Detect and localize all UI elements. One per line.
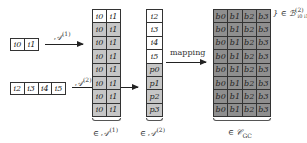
grid-c-brace: [213, 118, 271, 121]
column-a1: i0i1 i0i1 i0i1 i0i1 i0i1 i0i1 i0i1 i0i1: [92, 9, 121, 117]
cell: b1: [227, 64, 241, 76]
row-annotation: } ∈ ℬ(2)i0 i1: [273, 6, 307, 19]
mapping-label: mapping: [170, 48, 205, 57]
annotation-sup: (2): [295, 6, 304, 13]
cell: b2: [242, 90, 256, 102]
mapping-arrow: [166, 62, 206, 63]
caption-sub: GC: [242, 132, 251, 139]
grid-c-row: b0b1b2b3: [214, 49, 270, 62]
cell: i1: [106, 64, 120, 76]
arrow-a1-symbol: 𝒜: [54, 33, 62, 42]
cell: i1: [106, 10, 120, 22]
cell: i0: [93, 104, 106, 116]
token-cell: i1: [24, 39, 38, 50]
token-cell: i3: [24, 83, 38, 94]
cell: i0: [93, 37, 106, 49]
grid-c-row: b0b1b2b3: [214, 103, 270, 116]
grid-c-caption: ∈ 𝒞GC: [228, 128, 252, 139]
column-a2-row: p3: [147, 103, 162, 116]
column-a1-brace: [92, 118, 121, 121]
grid-c-row: b0b1b2b3: [214, 76, 270, 89]
cell: b2: [242, 77, 256, 89]
input-a1-box: i0 i1: [10, 38, 39, 51]
column-a1-row: i0i1: [93, 76, 120, 89]
caption-text: ∈ 𝒞: [228, 128, 242, 137]
cell: p0: [147, 64, 162, 76]
cell: b0: [214, 37, 227, 49]
cell: b1: [227, 90, 241, 102]
token-cell: i2: [11, 83, 24, 94]
arrow-a2-sup: (2): [83, 76, 92, 83]
column-a2-row: p1: [147, 76, 162, 89]
cell: i1: [106, 37, 120, 49]
cell: b0: [214, 104, 227, 116]
grid-c-row: b0b1b2b3: [214, 63, 270, 76]
column-a1-row: i0i1: [93, 63, 120, 76]
token-cell: i4: [38, 83, 52, 94]
arrow-a1: [45, 44, 83, 45]
column-a2: i2 i3 i4 i5 p0 p1 p2 p3: [146, 9, 163, 117]
cell: b3: [256, 23, 270, 35]
caption-sup: (2): [156, 126, 165, 133]
column-a1-row: i0i1: [93, 36, 120, 49]
cell: b2: [242, 10, 256, 22]
cell: i1: [106, 90, 120, 102]
column-a2-row: i4: [147, 36, 162, 49]
cell: b2: [242, 104, 256, 116]
grid-c-row: b0b1b2b3: [214, 10, 270, 22]
column-a2-row: i5: [147, 49, 162, 62]
cell: i4: [147, 37, 162, 49]
cell: b1: [227, 50, 241, 62]
column-a2-row: p0: [147, 63, 162, 76]
column-a2-row: p2: [147, 89, 162, 102]
cell: b2: [242, 23, 256, 35]
column-a1-row: i0i1: [93, 22, 120, 35]
cell: b3: [256, 50, 270, 62]
arrow-a1-label: 𝒜(1): [54, 30, 71, 43]
token-cell: i0: [11, 39, 24, 50]
cell: b3: [256, 104, 270, 116]
cell: i0: [93, 50, 106, 62]
column-a2-brace: [146, 118, 163, 121]
column-a1-row: i0i1: [93, 10, 120, 22]
column-a2-row: i2: [147, 10, 162, 22]
cell: b3: [256, 64, 270, 76]
grid-c: b0b1b2b3 b0b1b2b3 b0b1b2b3 b0b1b2b3 b0b1…: [213, 9, 271, 117]
cell: i0: [93, 90, 106, 102]
cell: b1: [227, 23, 241, 35]
annotation-sub: i0 i1: [298, 13, 307, 19]
column-a1-row: i0i1: [93, 49, 120, 62]
cell: b3: [256, 10, 270, 22]
cell: b3: [256, 37, 270, 49]
cell: p1: [147, 77, 162, 89]
cell: b2: [242, 37, 256, 49]
cell: i1: [106, 77, 120, 89]
column-a1-caption: ∈ 𝒜(1): [93, 126, 118, 139]
cell: b0: [214, 50, 227, 62]
cell: i1: [106, 50, 120, 62]
cell: b0: [214, 64, 227, 76]
grid-c-row: b0b1b2b3: [214, 22, 270, 35]
cell: b3: [256, 90, 270, 102]
grid-c-row: b0b1b2b3: [214, 89, 270, 102]
annotation-text: } ∈ ℬ: [273, 9, 295, 18]
cell: i5: [147, 50, 162, 62]
cell: b2: [242, 64, 256, 76]
cell: b1: [227, 104, 241, 116]
arrow-a1-sup: (1): [62, 30, 71, 37]
caption-sup: (1): [109, 126, 118, 133]
column-a2-caption: ∈ 𝒜(2): [140, 126, 165, 139]
cell: b3: [256, 77, 270, 89]
cell: i1: [106, 104, 120, 116]
cell: b1: [227, 10, 241, 22]
cell: i0: [93, 23, 106, 35]
column-a1-row: i0i1: [93, 103, 120, 116]
cell: b1: [227, 37, 241, 49]
cell: b0: [214, 77, 227, 89]
cell: b1: [227, 77, 241, 89]
cell: b0: [214, 23, 227, 35]
grid-c-row: b0b1b2b3: [214, 36, 270, 49]
input-a2-box: i2 i3 i4 i5: [10, 82, 66, 95]
cell: b0: [214, 10, 227, 22]
cell: i3: [147, 23, 162, 35]
